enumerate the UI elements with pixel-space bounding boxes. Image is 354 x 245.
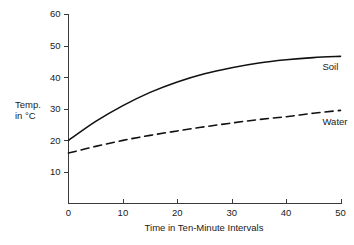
x-axis-tick-label: 10 — [118, 207, 129, 218]
x-axis-tick-label: 20 — [172, 207, 183, 218]
x-axis-tick-label: 0 — [66, 207, 71, 218]
x-axis-tick-group — [124, 199, 342, 204]
chart-canvas: 102030405060 01020304050 Soil Water Temp… — [0, 0, 354, 245]
y-axis-tick-label: 40 — [50, 72, 61, 83]
y-axis-tick-label: 20 — [50, 135, 61, 146]
y-axis-title-line2: in °C — [15, 110, 36, 121]
series-line-water — [69, 110, 341, 153]
x-axis-tick-label: 30 — [226, 207, 237, 218]
y-axis-tick-group — [64, 15, 69, 173]
y-axis-tick-label: 50 — [50, 40, 61, 51]
series-label-water: Water — [323, 116, 348, 127]
series-line-soil — [69, 56, 341, 140]
x-axis-tick-label: 50 — [335, 207, 346, 218]
temperature-line-chart: 102030405060 01020304050 Soil Water Temp… — [0, 0, 354, 245]
y-axis-title-line1: Temp. — [15, 99, 41, 110]
series-label-soil: Soil — [323, 61, 339, 72]
y-axis-tick-labels: 102030405060 — [50, 8, 61, 177]
x-axis-tick-label: 40 — [281, 207, 292, 218]
y-axis-tick-label: 60 — [50, 8, 61, 19]
y-axis-tick-label: 10 — [50, 166, 61, 177]
x-axis-title: Time in Ten-Minute Intervals — [145, 222, 264, 233]
x-axis-tick-labels: 01020304050 — [66, 207, 346, 218]
y-axis-tick-label: 30 — [50, 103, 61, 114]
